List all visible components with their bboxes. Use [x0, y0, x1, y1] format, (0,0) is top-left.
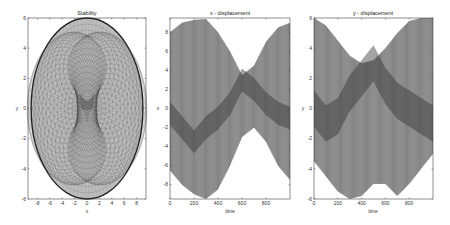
x-tick-label: 0	[169, 200, 172, 206]
x-tick-label: 200	[190, 200, 199, 206]
y-tick-label: 6	[165, 48, 168, 54]
x-displacement-panel: x - displacement 0200400600800 -8-6-4-20…	[157, 10, 290, 214]
y-tick-label: 6	[309, 15, 312, 21]
x-displacement-title: x - displacement	[210, 10, 251, 16]
x-tick-label: 4	[110, 200, 113, 206]
y-tick-label: 4	[165, 67, 168, 73]
x-tick-label: -8	[35, 200, 40, 206]
y-tick-label: 0	[165, 105, 168, 111]
x-displacement-signal	[170, 19, 290, 199]
stability-ylabel: y	[16, 105, 19, 111]
stability-title: Stability	[77, 10, 97, 16]
x-tick-label: -2	[72, 200, 77, 206]
stability-xlabel: x	[86, 208, 89, 214]
x-tick-label: 600	[238, 200, 247, 206]
x-tick-label: 800	[262, 200, 271, 206]
x-tick-label: -6	[48, 200, 53, 206]
figure: Stability -8-6-4-202468 -6-4-20246 x y x…	[0, 0, 450, 225]
y-displacement-title: y - displacement	[353, 10, 394, 16]
x-tick-label: 800	[405, 200, 414, 206]
x-tick-label: 400	[357, 200, 366, 206]
x-tick-label: 2	[98, 200, 101, 206]
y-tick-label: 6	[23, 15, 26, 21]
x-tick-label: 6	[123, 200, 126, 206]
x-tick-label: 600	[381, 200, 390, 206]
stability-trajectory	[27, 18, 147, 199]
y-tick-label: 2	[165, 86, 168, 92]
y-displacement-xlabel: time	[368, 208, 378, 214]
y-tick-label: -6	[22, 196, 27, 202]
y-tick-label: 2	[23, 75, 26, 81]
x-tick-label: 8	[135, 200, 138, 206]
y-tick-label: -2	[308, 135, 313, 141]
y-tick-label: -2	[22, 135, 27, 141]
x-tick-label: 200	[334, 200, 343, 206]
stability-panel: Stability -8-6-4-202468 -6-4-20246 x y	[16, 10, 147, 214]
x-tick-label: 0	[86, 200, 89, 206]
x-displacement-xlabel: time	[225, 208, 235, 214]
y-displacement-signal	[314, 18, 433, 199]
y-tick-label: -6	[164, 162, 169, 168]
x-tick-label: -4	[60, 200, 65, 206]
y-tick-label: -4	[308, 166, 313, 172]
y-displacement-ylabel: y	[302, 105, 305, 111]
y-tick-label: -4	[22, 166, 27, 172]
y-displacement-panel: y - displacement 0200400600800 -6-4-2024…	[302, 10, 433, 214]
x-tick-label: 400	[214, 200, 223, 206]
y-tick-label: -8	[164, 181, 169, 187]
x-displacement-ylabel: x	[157, 105, 160, 111]
y-tick-label: 0	[23, 105, 26, 111]
y-tick-label: -6	[308, 196, 313, 202]
x-tick-label: 0	[313, 200, 316, 206]
y-tick-label: -4	[164, 143, 169, 149]
y-tick-label: -2	[164, 124, 169, 130]
y-tick-label: 4	[309, 45, 312, 51]
y-tick-label: 2	[309, 75, 312, 81]
y-tick-label: 8	[165, 29, 168, 35]
y-tick-label: 4	[23, 45, 26, 51]
y-tick-label: 0	[309, 105, 312, 111]
